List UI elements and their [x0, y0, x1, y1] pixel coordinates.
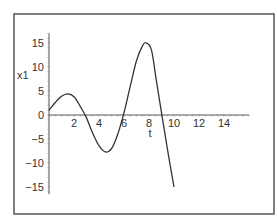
y-tick-label: −5: [31, 133, 44, 145]
x-tick-label: 2: [71, 117, 77, 129]
x-tick-label: 10: [168, 117, 180, 129]
y-tick-label: 10: [32, 61, 44, 73]
chart: 2468101214−15−10−5051015 t x1: [0, 0, 277, 221]
x-tick-label: 4: [96, 117, 102, 129]
x-tick-label: 14: [218, 117, 230, 129]
y-tick-label: 0: [38, 109, 44, 121]
y-axis-label: x1: [17, 69, 29, 81]
y-tick-label: −15: [25, 181, 44, 193]
x-tick-label: 12: [193, 117, 205, 129]
y-tick-label: 15: [32, 37, 44, 49]
x-axis-label: t: [148, 127, 151, 139]
y-tick-label: −10: [25, 157, 44, 169]
y-tick-label: 5: [38, 85, 44, 97]
